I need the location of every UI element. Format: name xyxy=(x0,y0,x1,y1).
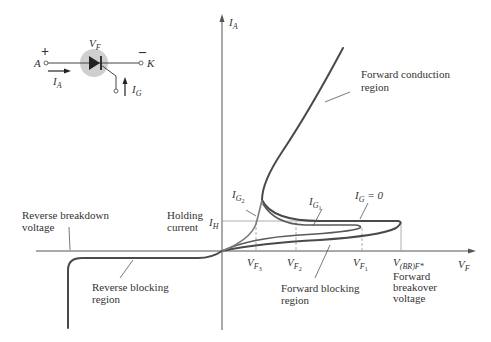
vf2-tick-label: VF2 xyxy=(287,256,302,272)
ig1-label: IG1 xyxy=(308,195,321,211)
anode-current-label: IA xyxy=(52,75,62,90)
vf3-tick-label: VF3 xyxy=(247,256,262,272)
x-axis-label: VF xyxy=(458,258,470,273)
minus-sign: – xyxy=(138,44,147,59)
gate-current-label: IG xyxy=(131,83,142,98)
gate-current-arrow-icon xyxy=(123,77,128,84)
forward-breakover-label: Forwardbreakovervoltage xyxy=(393,270,437,304)
plus-sign: + xyxy=(41,44,49,59)
holding-current-label: Holdingcurrent xyxy=(167,209,204,233)
leader-lines xyxy=(69,92,368,278)
cathode-label: K xyxy=(146,57,155,69)
reverse-breakdown-label: Reverse breakdownvoltage xyxy=(22,209,110,233)
vbr-tick-label: V(BR)F* xyxy=(393,256,424,271)
forward-blocking-label: Forward blockingregion xyxy=(281,282,360,306)
ig0-label: IG = 0 xyxy=(354,189,383,204)
curve-ig1 xyxy=(222,204,361,251)
anode-label: A xyxy=(33,57,41,69)
vf1-tick-label: VF1 xyxy=(353,256,368,272)
anode-terminal xyxy=(44,61,48,65)
ig2-label: IG2 xyxy=(231,188,244,204)
forward-conduction-label: Forward conductionregion xyxy=(361,68,450,93)
forward-conduction-curve xyxy=(262,48,343,200)
reverse-blocking-label: Reverse blockingregion xyxy=(92,281,169,305)
gate-terminal xyxy=(114,89,118,93)
scr-vi-characteristic-diagram: IA VF Forward conductionregion Reverse b… xyxy=(0,0,491,342)
voltage-guides xyxy=(256,222,362,251)
y-axis-label: IA xyxy=(228,16,238,31)
cathode-terminal xyxy=(139,61,143,65)
anode-current-arrow-icon xyxy=(64,69,71,74)
holding-current-symbol: IH xyxy=(208,216,220,231)
